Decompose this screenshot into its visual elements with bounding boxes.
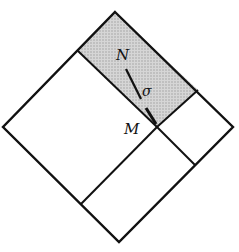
diagram-svg: [0, 0, 239, 252]
divider-line-lower-right: [157, 127, 195, 165]
label-n: N: [116, 48, 129, 63]
divider-line-lower-left: [81, 127, 157, 204]
label-m: M: [124, 122, 139, 137]
label-sigma: σ: [142, 84, 152, 98]
diagram-canvas: N σ M: [0, 0, 239, 252]
